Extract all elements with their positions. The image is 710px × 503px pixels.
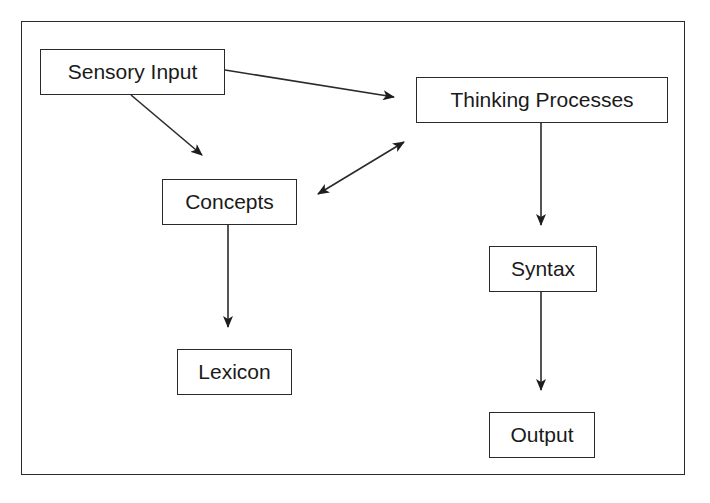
node-thinking-processes: Thinking Processes [416,77,668,123]
node-lexicon: Lexicon [177,349,292,395]
edge-sensory-to-concepts [131,95,202,155]
node-concepts: Concepts [162,179,297,225]
edge-sensory-to-thinking [225,70,394,97]
node-output: Output [489,412,595,458]
node-syntax: Syntax [489,246,597,292]
edge-concepts-thinking-bidirectional [318,142,404,194]
node-sensory-input: Sensory Input [40,49,225,95]
